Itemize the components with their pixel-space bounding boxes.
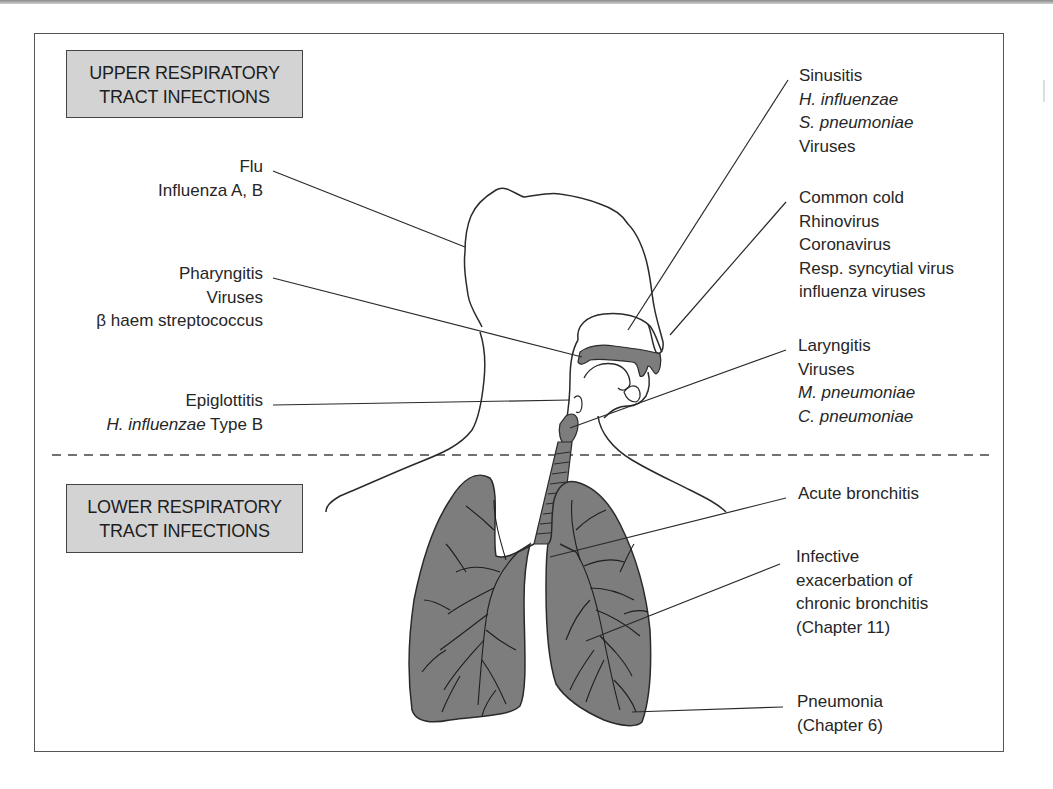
sinusitis-organism-1: H. influenzae	[799, 88, 913, 112]
head-outline	[464, 188, 663, 353]
flu-organism: Influenza A, B	[158, 179, 263, 203]
sinusitis-organism-2: S. pneumoniae	[799, 111, 913, 135]
pharyngitis-title: Pharyngitis	[96, 262, 263, 286]
infective-exacerbation-chapter: (Chapter 11)	[796, 616, 928, 640]
common-cold-organism-1: Rhinovirus	[799, 210, 954, 234]
leader-laryngitis	[570, 350, 786, 428]
epiglottis-shape	[574, 396, 582, 413]
upper-section-line2: TRACT INFECTIONS	[67, 85, 302, 109]
epiglottitis-organism-italic: H. influenzae	[106, 415, 205, 434]
label-acute-bronchitis: Acute bronchitis	[798, 482, 919, 506]
label-epiglottitis: Epiglottitis H. influenzae Type B	[106, 389, 263, 436]
leader-common-cold	[670, 202, 786, 335]
acute-bronchitis-title: Acute bronchitis	[798, 482, 919, 506]
infective-exacerbation-line-3: chronic bronchitis	[796, 592, 928, 616]
sinusitis-organism-3: Viruses	[799, 135, 913, 159]
label-sinusitis: Sinusitis H. influenzae S. pneumoniae Vi…	[799, 64, 913, 158]
lower-section-line2: TRACT INFECTIONS	[67, 519, 302, 543]
leader-flu	[273, 171, 465, 247]
label-pneumonia: Pneumonia (Chapter 6)	[797, 690, 883, 737]
teeth-lower	[624, 386, 640, 402]
tongue-outline	[584, 364, 630, 391]
label-laryngitis: Laryngitis Viruses M. pneumoniae C. pneu…	[798, 334, 915, 428]
label-pharyngitis: Pharyngitis Viruses β haem streptococcus	[96, 262, 263, 333]
laryngitis-title: Laryngitis	[798, 334, 915, 358]
leader-lines	[273, 80, 788, 712]
leader-epiglottitis	[273, 400, 570, 405]
label-common-cold: Common cold Rhinovirus Coronavirus Resp.…	[799, 186, 954, 304]
epiglottitis-title: Epiglottitis	[106, 389, 263, 413]
sinusitis-title: Sinusitis	[799, 64, 913, 88]
pharyngitis-organism-1: Viruses	[96, 286, 263, 310]
common-cold-organism-3: Resp. syncytial virus	[799, 257, 954, 281]
infective-exacerbation-line-2: exacerbation of	[796, 569, 928, 593]
flu-title: Flu	[158, 155, 263, 179]
label-flu: Flu Influenza A, B	[158, 155, 263, 202]
epiglottitis-organism: H. influenzae Type B	[106, 413, 263, 437]
lower-section-line1: LOWER RESPIRATORY	[67, 495, 302, 519]
lung-right	[546, 482, 651, 726]
label-infective-exacerbation: Infective exacerbation of chronic bronch…	[796, 545, 928, 639]
leader-sinusitis	[628, 80, 788, 330]
leader-pneumonia	[632, 707, 783, 712]
laryngitis-organism-1: Viruses	[798, 358, 915, 382]
infective-exacerbation-line-1: Infective	[796, 545, 928, 569]
pharynx-outline	[566, 340, 578, 424]
common-cold-organism-2: Coronavirus	[799, 233, 954, 257]
neck-front-line	[598, 416, 726, 512]
lung-left	[409, 475, 530, 722]
leader-pharyngitis	[273, 278, 582, 357]
larynx	[559, 414, 578, 446]
common-cold-organism-4: influenza viruses	[799, 280, 954, 304]
palate	[578, 345, 661, 376]
epiglottitis-organism-suffix: Type B	[206, 415, 263, 434]
laryngitis-organism-3: C. pneumoniae	[798, 405, 915, 429]
pharyngitis-organism-2: β haem streptococcus	[96, 309, 263, 333]
lower-respiratory-section-box: LOWER RESPIRATORY TRACT INFECTIONS	[66, 484, 303, 553]
pneumonia-chapter: (Chapter 6)	[797, 714, 883, 738]
upper-respiratory-section-box: UPPER RESPIRATORY TRACT INFECTIONS	[66, 50, 303, 118]
upper-section-line1: UPPER RESPIRATORY	[67, 61, 302, 85]
pneumonia-title: Pneumonia	[797, 690, 883, 714]
mouth-outline	[604, 372, 649, 418]
common-cold-title: Common cold	[799, 186, 954, 210]
laryngitis-organism-2: M. pneumoniae	[798, 381, 915, 405]
